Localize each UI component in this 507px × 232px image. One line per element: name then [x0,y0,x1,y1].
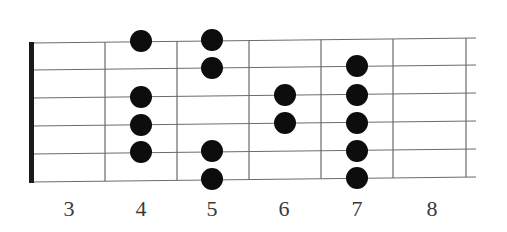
fret-lines [105,38,466,181]
note-dot-fret4-string4 [130,114,152,136]
note-dot-fret5-string1 [201,29,223,51]
note-dot-fret4-string1 [130,30,152,52]
note-dot-fret5-string5 [201,140,223,162]
note-dot-fret7-string4 [346,112,368,134]
note-dot-fret7-string2 [346,55,368,77]
note-dot-fret7-string6 [346,167,368,189]
string-line-4 [32,121,476,126]
fret-label-8: 8 [417,196,447,222]
note-dot-fret5-string2 [201,57,223,79]
note-dot-fret6-string3 [274,84,296,106]
note-dot-fret7-string3 [346,84,368,106]
fret-label-7: 7 [342,196,372,222]
strings [32,38,476,182]
string-line-6 [32,177,476,182]
string-line-5 [32,149,476,154]
string-line-1 [32,38,476,43]
nut [29,42,34,183]
note-dot-fret4-string3 [130,86,152,108]
fret-label-6: 6 [269,196,299,222]
note-dot-fret6-string4 [274,112,296,134]
note-dot-fret5-string6 [201,168,223,190]
fret-label-4: 4 [126,196,156,222]
fret-label-5: 5 [197,196,227,222]
string-line-3 [32,93,476,98]
note-dot-fret7-string5 [346,140,368,162]
fret-label-3: 3 [54,196,84,222]
note-dot-fret4-string5 [130,141,152,163]
string-line-2 [32,65,476,70]
